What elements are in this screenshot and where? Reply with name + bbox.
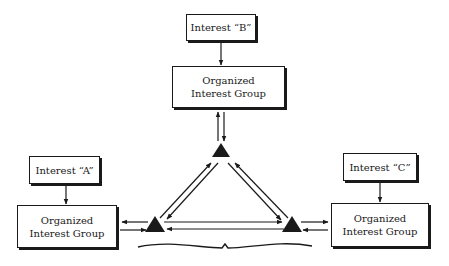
- group-top-line1: Organized: [202, 74, 255, 87]
- node-top-triangle: [212, 143, 230, 157]
- interest-c-label: Interest “C”: [349, 161, 410, 174]
- group-left-line2: Interest Group: [30, 227, 105, 240]
- organized-group-left-box: Organized Interest Group: [17, 205, 117, 248]
- node-right-triangle: [282, 216, 302, 232]
- group-right-line2: Interest Group: [343, 225, 418, 238]
- interest-b-box: Interest “B”: [186, 14, 256, 41]
- interest-a-label: Interest “A”: [35, 164, 93, 177]
- interest-b-label: Interest “B”: [191, 21, 252, 34]
- interest-a-box: Interest “A”: [29, 156, 100, 184]
- group-top-line2: Interest Group: [191, 87, 266, 100]
- group-left-line1: Organized: [41, 214, 94, 227]
- node-left-triangle: [145, 216, 165, 232]
- group-right-line1: Organized: [354, 212, 407, 225]
- organized-group-top-box: Organized Interest Group: [172, 66, 285, 108]
- interest-c-box: Interest “C”: [343, 153, 417, 181]
- brace: [138, 244, 312, 248]
- organized-group-right-box: Organized Interest Group: [331, 203, 429, 247]
